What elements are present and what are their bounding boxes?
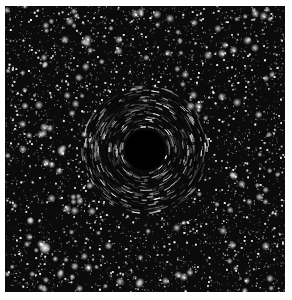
starfield-canvas (5, 6, 285, 292)
black-hole-image: Simulated black hole lensing a field of … (5, 6, 285, 292)
